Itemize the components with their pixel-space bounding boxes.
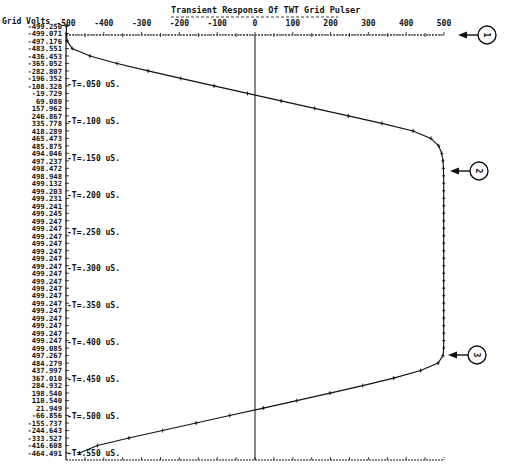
x-tick-label: -400 (94, 19, 113, 28)
x-tick-label: -200 (170, 19, 189, 28)
annotations: 123 (448, 26, 496, 364)
time-label: -T=.250 uS. (67, 228, 120, 237)
time-label: -T=.300 uS. (67, 264, 120, 273)
x-tick-label: 500 (437, 19, 452, 28)
x-tick-label: 0 (253, 19, 258, 28)
time-label: -T=.550 uS. (67, 449, 120, 458)
x-tick-label: 300 (361, 19, 376, 28)
svg-text:2: 2 (474, 169, 483, 174)
svg-text:1: 1 (482, 33, 491, 38)
x-axis: -500-400-300-200-1000100200300400500 (56, 19, 451, 37)
svg-text:3: 3 (472, 353, 481, 358)
plot-frame (65, 26, 444, 460)
chart-title: Transient Response Of TWT Grid Pulser (171, 5, 360, 15)
annotation-marker-2: 2 (450, 162, 488, 180)
x-tick-label: -300 (132, 19, 151, 28)
time-labels: -T=.050 uS.-T=.100 uS.-T=.150 uS.-T=.200… (67, 80, 120, 458)
time-label: -T=.400 uS. (67, 338, 120, 347)
time-label: -T=.350 uS. (67, 301, 120, 310)
x-tick-label: 100 (286, 19, 301, 28)
grid-volts-value-list: -499.250-499.071-497.176-483.551-436.453… (27, 22, 62, 458)
annotation-marker-1: 1 (458, 26, 496, 44)
time-label: -T=.450 uS. (67, 375, 120, 384)
time-label: -T=.050 uS. (67, 80, 120, 89)
annotation-marker-3: 3 (448, 346, 486, 364)
x-tick-label: 400 (399, 19, 414, 28)
x-tick-label: -100 (208, 19, 227, 28)
time-label: -T=.150 uS. (67, 154, 120, 163)
x-tick-label: 200 (323, 19, 338, 28)
time-label: -T=.500 uS. (67, 412, 120, 421)
grid-volts-value: -464.491 (27, 449, 62, 458)
transient-response-chart: Transient Response Of TWT Grid Pulser -5… (0, 0, 506, 475)
time-label: -T=.200 uS. (67, 191, 120, 200)
time-label: -T=.100 uS. (67, 117, 120, 126)
